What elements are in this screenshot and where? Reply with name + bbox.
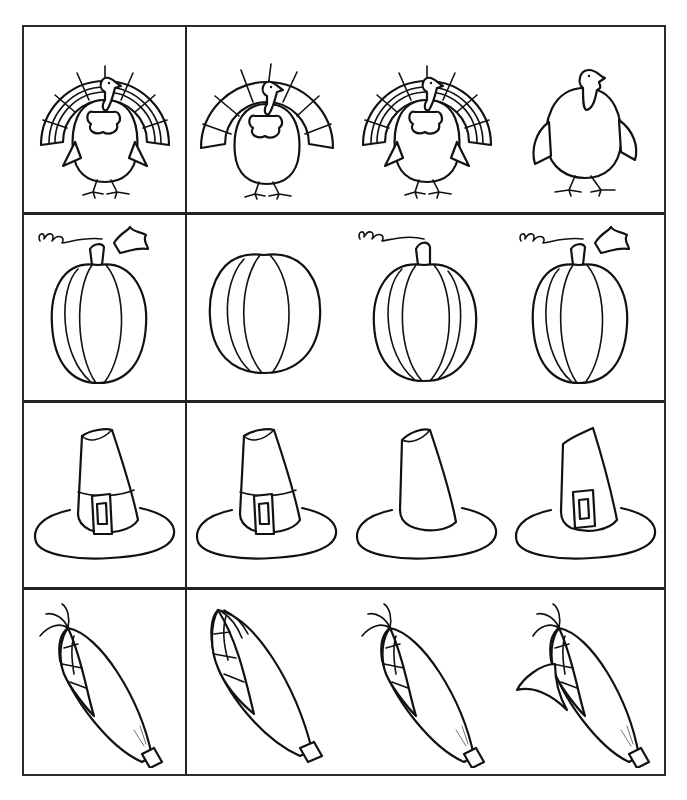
row-pilgrim-hat <box>24 403 664 587</box>
choice-cell-turkey-2[interactable] <box>347 27 507 212</box>
corn-silk-tassel-icon <box>30 598 180 768</box>
row-pumpkin <box>24 215 664 400</box>
reference-cell-pumpkin <box>24 215 185 400</box>
turkey-no-fan-icon <box>521 40 651 200</box>
turkey-fan-single-band-icon <box>197 40 337 200</box>
reference-cell-turkey <box>24 27 185 212</box>
choice-cell-pumpkin-2[interactable] <box>347 215 507 400</box>
turkey-fan-double-band-icon <box>357 40 497 200</box>
pumpkin-stem-leaf-vine-icon <box>30 225 180 390</box>
corn-silk-leaf-icon <box>511 598 661 768</box>
choice-cell-hat-3[interactable] <box>507 403 664 587</box>
turkey-fan-double-band-icon <box>35 40 175 200</box>
choice-cell-corn-1[interactable] <box>187 590 347 776</box>
pilgrim-hat-band-buckle-icon <box>192 420 342 570</box>
choice-cell-hat-1[interactable] <box>187 403 347 587</box>
pumpkin-stem-vine-icon <box>352 225 502 390</box>
choice-cell-corn-3[interactable] <box>507 590 664 776</box>
pumpkin-no-stem-icon <box>192 225 342 390</box>
choice-cell-pumpkin-1[interactable] <box>187 215 347 400</box>
choice-cell-turkey-1[interactable] <box>187 27 347 212</box>
corn-no-silk-icon <box>192 598 342 768</box>
pilgrim-hat-band-buckle-icon <box>30 420 180 570</box>
pumpkin-stem-leaf-vine-icon <box>511 225 661 390</box>
choice-cell-turkey-3[interactable] <box>507 27 664 212</box>
pilgrim-hat-buckle-no-band-icon <box>511 420 661 570</box>
corn-silk-tassel-icon <box>352 598 502 768</box>
reference-cell-corn <box>24 590 185 776</box>
worksheet-grid <box>22 25 666 776</box>
choice-cell-pumpkin-3[interactable] <box>507 215 664 400</box>
reference-cell-hat <box>24 403 185 587</box>
row-turkey <box>24 27 664 212</box>
choice-cell-corn-2[interactable] <box>347 590 507 776</box>
row-corn <box>24 590 664 776</box>
pilgrim-hat-plain-icon <box>352 420 502 570</box>
choice-cell-hat-2[interactable] <box>347 403 507 587</box>
